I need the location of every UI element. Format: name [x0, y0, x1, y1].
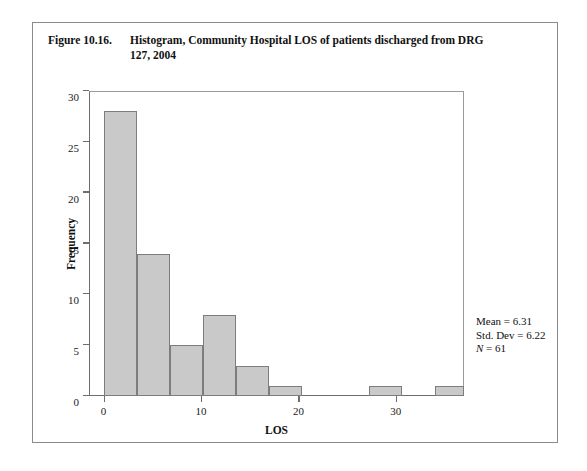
histogram-plot: 051015202530 0102030 Frequency LOS [89, 91, 464, 396]
histogram-bar [170, 345, 203, 396]
stat-std-dev: Std. Dev = 6.22 [476, 329, 545, 343]
figure-caption: Figure 10.16.Histogram, Community Hospit… [48, 33, 528, 63]
y-axis-tick [83, 344, 89, 345]
figure-container: Figure 10.16.Histogram, Community Hospit… [32, 22, 558, 443]
histogram-bars [89, 91, 464, 396]
x-axis-tick [298, 396, 299, 402]
y-axis-tick [83, 395, 89, 396]
figure-title: Histogram, Community Hospital LOS of pat… [130, 33, 500, 63]
y-axis-title: Frequency [65, 217, 77, 269]
stat-n: N = 61 [476, 342, 545, 356]
histogram-bar [435, 386, 464, 396]
x-axis-tick [201, 396, 202, 402]
histogram-bar [236, 366, 269, 397]
histogram-bar [137, 254, 170, 396]
x-axis-tick-label: 30 [390, 405, 401, 417]
statistics-annotation: Mean = 6.31 Std. Dev = 6.22 N = 61 [476, 315, 545, 356]
histogram-bar [369, 386, 402, 396]
x-axis-tick-label: 0 [101, 405, 107, 417]
stat-mean: Mean = 6.31 [476, 315, 545, 329]
histogram-bar [269, 386, 302, 396]
figure-number: Figure 10.16. [48, 33, 130, 48]
x-axis-tick [396, 396, 397, 402]
y-axis-tick [83, 293, 89, 294]
y-axis-tick [83, 191, 89, 192]
y-axis-tick [83, 242, 89, 243]
x-axis-tick-label: 10 [196, 405, 207, 417]
stat-n-value: = 61 [483, 342, 506, 354]
y-axis-tick [83, 141, 89, 142]
x-axis-tick [104, 396, 105, 402]
histogram-bar [104, 111, 137, 396]
histogram-bar [203, 315, 236, 396]
y-axis-tick [83, 90, 89, 91]
x-axis-tick-label: 20 [293, 405, 304, 417]
x-axis-title: LOS [89, 424, 464, 436]
